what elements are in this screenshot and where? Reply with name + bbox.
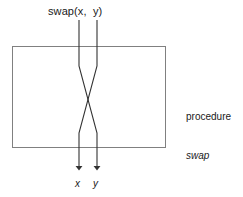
- wire-x-to-y: [79, 20, 97, 168]
- diagram-canvas: swap(x, y) x y procedure swap: [0, 0, 243, 197]
- procedure-call-label: swap(x, y): [48, 6, 102, 17]
- side-caption: procedure swap: [186, 84, 231, 188]
- side-caption-name: swap: [186, 149, 231, 162]
- output-label-x: x: [75, 179, 80, 189]
- output-label-y: y: [93, 179, 98, 189]
- wire-y-to-x: [79, 20, 97, 168]
- side-caption-keyword: procedure: [186, 110, 231, 123]
